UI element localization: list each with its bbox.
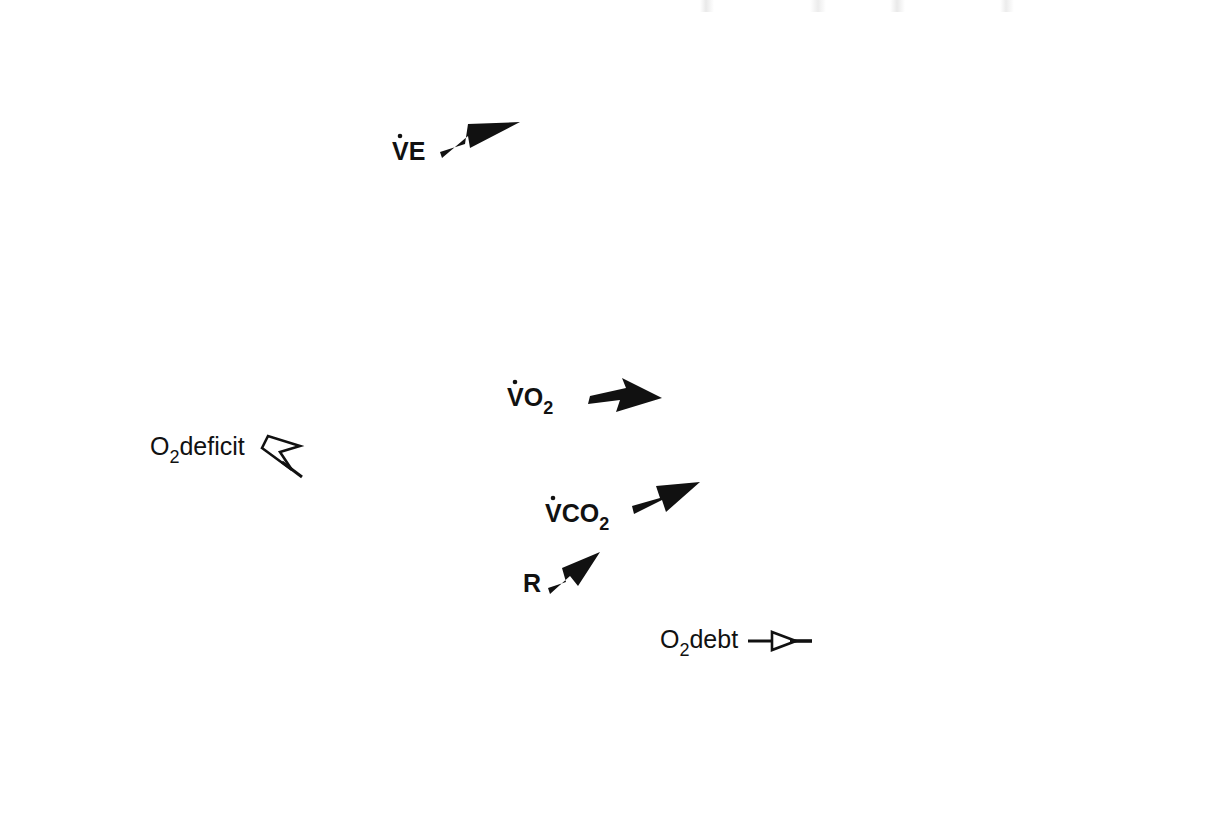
figure-container: VEVO2VCO2RO2deficitO2debt <box>0 0 1206 838</box>
o2-debt-label: O2debt <box>660 625 738 660</box>
callouts-group-2: VEVO2VCO2RO2deficitO2debt <box>150 122 812 660</box>
solid-arrow-icon <box>588 378 662 412</box>
callout-o2-deficit: O2deficit <box>150 432 302 477</box>
callout-vco2-label: VCO2 <box>545 499 609 534</box>
callout-o2-debt: O2debt <box>660 625 812 660</box>
hollow-arrow-icon <box>262 436 300 470</box>
callout-vco2: VCO2 <box>545 482 700 534</box>
solid-arrow-icon <box>548 552 600 594</box>
callout-ve: VE <box>392 122 520 165</box>
callout-vo2: VO2 <box>507 378 662 418</box>
chart-svg: VEVO2VCO2RO2deficitO2debt <box>0 0 1206 838</box>
o2-deficit-label: O2deficit <box>150 432 245 467</box>
callout-ve-label: VE <box>392 137 425 165</box>
solid-arrow-icon <box>440 122 520 158</box>
callout-r-label: R <box>523 569 541 597</box>
solid-arrow-icon <box>632 482 700 514</box>
callout-vo2-label: VO2 <box>507 383 553 418</box>
callout-r: R <box>523 552 600 597</box>
